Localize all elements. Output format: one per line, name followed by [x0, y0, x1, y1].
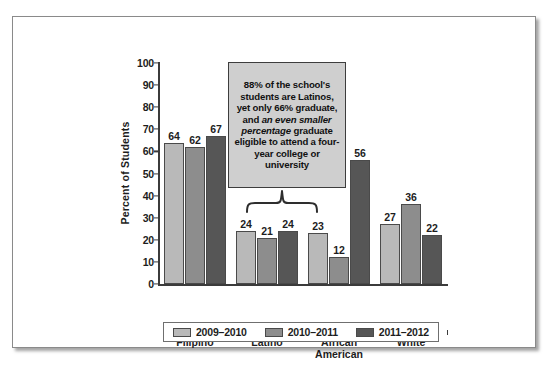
bar-value-label: 23: [312, 220, 323, 232]
bar[interactable]: [236, 231, 256, 284]
y-axis-tick-label: 10: [143, 256, 154, 268]
y-axis-tick-label: 100: [137, 57, 154, 69]
y-axis-tick-mark: [154, 62, 159, 63]
bar-value-label: 24: [240, 218, 251, 230]
y-axis-tick-label: 30: [143, 212, 154, 224]
y-axis-tick-mark: [154, 173, 159, 174]
y-axis-tick-mark: [154, 195, 159, 196]
bar-value-label: 21: [261, 225, 272, 237]
bar[interactable]: [350, 160, 370, 284]
y-axis-tick-label: 60: [143, 145, 154, 157]
legend-item[interactable]: 2010–2011: [265, 326, 338, 338]
legend-swatch: [356, 328, 374, 337]
chart-figure-frame: Percent of Students 01020304050607080901…: [12, 16, 536, 348]
curly-brace-icon: [245, 189, 319, 213]
bar[interactable]: [380, 224, 400, 284]
y-axis-tick-mark: [154, 283, 159, 284]
y-axis-tick-mark: [154, 85, 159, 86]
bar[interactable]: [278, 231, 298, 284]
bar-group: 646267: [164, 63, 226, 284]
bar-value-label: 24: [282, 218, 293, 230]
bar-value-label: 62: [189, 134, 200, 146]
y-axis-tick-label: 20: [143, 234, 154, 246]
bar[interactable]: [401, 204, 421, 284]
y-axis-tick-label: 90: [143, 79, 154, 91]
bar-value-label: 27: [384, 211, 395, 223]
y-axis-tick-mark: [154, 129, 159, 130]
screenshot-page: Percent of Students 01020304050607080901…: [0, 0, 556, 371]
latino-callout-box: 88% of the school's students are Latinos…: [228, 62, 346, 188]
y-axis-tick-mark: [154, 217, 159, 218]
legend-label: 2011–2012: [379, 326, 429, 338]
chart-legend: 2009–20102010–20112011–2012: [163, 322, 439, 342]
x-axis-line: [158, 284, 448, 286]
bar-value-label: 56: [354, 147, 365, 159]
legend-label: 2009–2010: [196, 326, 247, 338]
bar[interactable]: [422, 235, 442, 284]
x-axis-tick-mark: [447, 330, 448, 335]
y-axis-tick-mark: [154, 107, 159, 108]
bar[interactable]: [164, 143, 184, 284]
legend-item[interactable]: 2011–2012: [356, 326, 429, 338]
y-axis-tick-mark: [154, 261, 159, 262]
y-axis-tick-label: 70: [143, 123, 154, 135]
legend-label: 2010–2011: [288, 326, 338, 338]
bar[interactable]: [308, 233, 328, 284]
y-axis-tick-label: 40: [143, 190, 154, 202]
bar-value-label: 22: [426, 222, 437, 234]
y-axis-tick-label: 50: [143, 168, 154, 180]
y-axis-tick-label: 80: [143, 101, 154, 113]
y-axis-label: Percent of Students: [119, 122, 131, 225]
latino-callout-text: 88% of the school's students are Latinos…: [233, 79, 341, 170]
bar[interactable]: [206, 136, 226, 284]
bar-value-label: 12: [333, 244, 344, 256]
bar-value-label: 67: [210, 123, 221, 135]
legend-item[interactable]: 2009–2010: [173, 326, 247, 338]
bar-group: 273622: [380, 63, 442, 284]
legend-swatch: [265, 328, 283, 337]
legend-swatch: [173, 328, 191, 337]
bar[interactable]: [257, 238, 277, 284]
y-axis-tick-mark: [154, 151, 159, 152]
bar[interactable]: [329, 257, 349, 284]
y-axis-tick-mark: [154, 239, 159, 240]
bar[interactable]: [185, 147, 205, 284]
bar-value-label: 36: [405, 191, 416, 203]
bar-value-label: 64: [168, 130, 179, 142]
